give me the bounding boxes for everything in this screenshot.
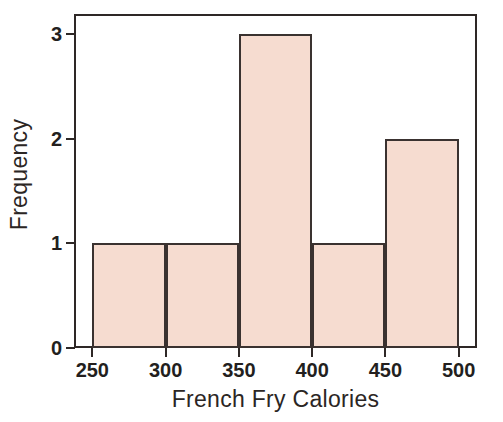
x-axis-tick-label: 400 (282, 360, 342, 380)
histogram-bar (385, 139, 458, 348)
x-axis-tick-label: 300 (136, 360, 196, 380)
x-axis-tick-mark (238, 348, 240, 357)
y-axis-title-text: Frequency (7, 118, 34, 229)
histogram-bar (92, 243, 165, 348)
bars-layer (74, 14, 477, 348)
x-axis-tick-mark (165, 348, 167, 357)
histogram-bar (239, 34, 312, 348)
x-axis-tick-mark (91, 348, 93, 357)
x-axis-title: French Fry Calories (74, 386, 477, 413)
y-axis-tick-labels: 0123 (34, 0, 62, 422)
y-axis-tick-label: 2 (36, 129, 62, 149)
x-axis-tick-mark (384, 348, 386, 357)
histogram-bar (166, 243, 239, 348)
x-axis-tick-mark (458, 348, 460, 357)
x-axis-tick-label: 250 (62, 360, 122, 380)
histogram-bar (312, 243, 385, 348)
y-axis-tick-label: 0 (36, 338, 62, 358)
x-axis-tick-label: 500 (429, 360, 489, 380)
x-axis-tick-label: 450 (355, 360, 415, 380)
y-axis-tick-label: 1 (36, 233, 62, 253)
histogram-chart: Frequency 0123 250300350400450500 French… (0, 0, 503, 422)
x-axis-tick-mark (311, 348, 313, 357)
y-axis-tick-label: 3 (36, 24, 62, 44)
x-axis-tick-label: 350 (209, 360, 269, 380)
